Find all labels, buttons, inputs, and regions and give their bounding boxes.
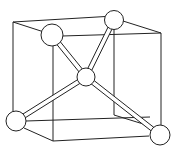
atom-bottom-left [6, 111, 26, 131]
atom-center [77, 68, 95, 86]
atom-top-right [105, 11, 124, 30]
cube-edge [123, 21, 161, 33]
atom-bottom-right [150, 125, 170, 145]
tetrahedral-cube-diagram [0, 0, 176, 153]
cube-edge [62, 33, 161, 36]
cube-edge [24, 128, 53, 141]
cube-edge [53, 136, 149, 141]
bond-bottom-right [85, 75, 162, 136]
atom-top-left [41, 24, 63, 46]
cube-edge [13, 22, 44, 32]
cube-edge [13, 16, 114, 22]
bond-bottom-left [15, 75, 87, 123]
